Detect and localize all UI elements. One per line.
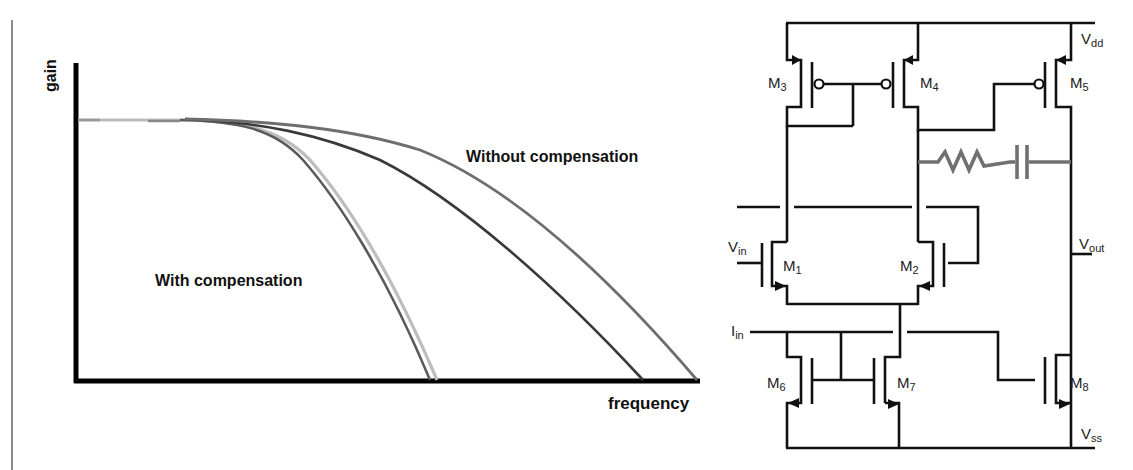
transistor-m6 xyxy=(787,332,874,448)
transistor-m4 xyxy=(882,23,919,132)
y-axis-label: gain xyxy=(42,59,60,92)
label-m6: M6 xyxy=(767,374,786,393)
annotation-without-compensation: Without compensation xyxy=(466,148,638,166)
figure-canvas xyxy=(0,0,1133,470)
bode-plot xyxy=(74,63,700,383)
transistor-m3 xyxy=(787,23,882,127)
label-m8: M8 xyxy=(1070,374,1089,393)
curve-with-compensation-light xyxy=(78,120,437,380)
label-vin: Vin xyxy=(728,238,747,257)
label-vss: Vss xyxy=(1081,425,1102,444)
transistor-m7 xyxy=(874,358,899,448)
label-m2: M2 xyxy=(900,257,919,276)
label-iin: Iin xyxy=(731,322,744,341)
label-m5: M5 xyxy=(1070,74,1089,93)
compensation-network xyxy=(918,145,1071,179)
label-vout: Vout xyxy=(1079,235,1104,254)
circuit-schematic xyxy=(737,23,1095,448)
annotation-with-compensation: With compensation xyxy=(155,272,302,290)
transistor-m2 xyxy=(918,242,944,305)
label-m1: M1 xyxy=(783,257,802,276)
resistor-icon xyxy=(918,152,1015,170)
curve-with-compensation-dark xyxy=(180,120,430,380)
transistor-m5 xyxy=(1035,23,1072,448)
label-m7: M7 xyxy=(897,374,916,393)
label-m3: M3 xyxy=(768,74,787,93)
figure: gain frequency Without compensation With… xyxy=(0,0,1133,470)
transistor-m8 xyxy=(1045,355,1071,409)
x-axis-label: frequency xyxy=(608,394,689,414)
label-vdd: Vdd xyxy=(1081,30,1103,49)
label-m4: M4 xyxy=(920,74,939,93)
